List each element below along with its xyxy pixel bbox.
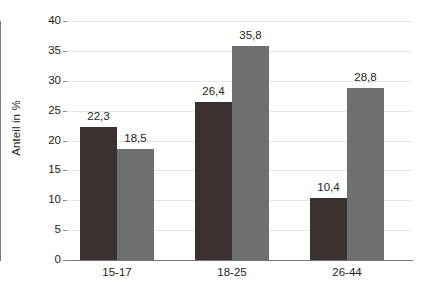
- x-axis-category-label: 18-25: [175, 266, 289, 278]
- bar-value-label: 22,3: [74, 111, 123, 123]
- y-axis-tick-label: 30: [35, 75, 61, 87]
- bar: [117, 149, 154, 260]
- y-axis-tick-label: 35: [35, 45, 61, 57]
- y-axis-tick-label: 15: [35, 164, 61, 176]
- bar-value-label: 10,4: [304, 182, 353, 194]
- y-axis-tick-label: 25: [35, 105, 61, 117]
- bar: [80, 127, 117, 260]
- y-axis-tick-label: 40: [35, 15, 61, 27]
- bar-chart: Anteil in % 0510152025303540 22,318,526,…: [0, 0, 430, 292]
- y-axis-tick-label: 5: [35, 224, 61, 236]
- y-axis-tick: [63, 21, 67, 22]
- x-axis-line: [67, 260, 413, 261]
- x-axis-category-label: 26-44: [290, 266, 404, 278]
- y-axis-tick: [63, 170, 67, 171]
- bar: [232, 46, 269, 260]
- bar: [195, 102, 232, 260]
- y-axis-tick-label: 20: [35, 135, 61, 147]
- y-axis-title: Anteil in %: [10, 68, 22, 188]
- y-axis-tick: [63, 200, 67, 201]
- y-axis-tick: [63, 51, 67, 52]
- bar-value-label: 35,8: [226, 30, 275, 42]
- x-axis-category-label: 15-17: [60, 266, 174, 278]
- y-axis-tick: [63, 260, 67, 261]
- y-axis-tick: [63, 230, 67, 231]
- bar-value-label: 28,8: [341, 72, 390, 84]
- bar-value-label: 26,4: [189, 86, 238, 98]
- y-axis-tick-label: 0: [35, 254, 61, 266]
- y-axis-line: [0, 21, 1, 261]
- y-axis-tick-label: 10: [35, 194, 61, 206]
- y-axis-tick-labels: 0510152025303540: [33, 21, 61, 260]
- plot-area: 22,318,526,435,810,428,8: [67, 21, 412, 260]
- gridline: [67, 21, 412, 22]
- y-axis-tick: [63, 81, 67, 82]
- bar: [310, 198, 347, 260]
- y-axis-tick: [63, 111, 67, 112]
- bar: [347, 88, 384, 260]
- y-axis-tick: [63, 141, 67, 142]
- bar-value-label: 18,5: [111, 133, 160, 145]
